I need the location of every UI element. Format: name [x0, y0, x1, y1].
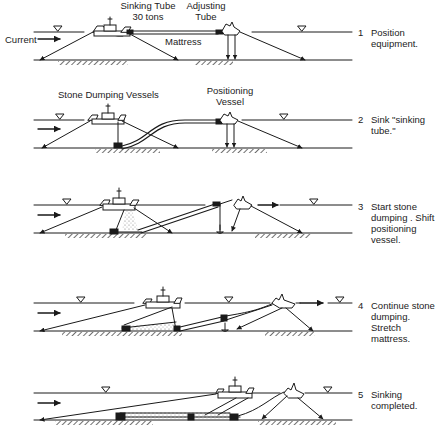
sinking-tube-weight: 30 tons [120, 11, 176, 22]
stone-dumping-vessels-label: Stone Dumping Vessels [58, 89, 159, 100]
anchor-icon [217, 225, 223, 234]
mattress-label: Mattress [165, 36, 201, 47]
adjusting-tube-line-1: Adjusting [183, 0, 229, 11]
panel-5 [34, 377, 352, 425]
anchor-icon [222, 323, 228, 332]
adjusting-tube-label: Adjusting Tube [183, 0, 229, 22]
sinking-tube [127, 30, 133, 34]
step-number: 2 [358, 114, 363, 125]
sinking-tube-name: Sinking Tube [120, 0, 176, 11]
vessel-icon [216, 377, 254, 398]
positioning-vessel-line-1: Positioning [204, 85, 256, 96]
positioning-vessel-icon [234, 196, 252, 209]
step-text: Position equipment. [371, 27, 441, 49]
step-number: 1 [358, 27, 363, 38]
adjusting-tube [230, 414, 238, 420]
panel-4 [34, 287, 352, 336]
step-number: 4 [358, 300, 363, 311]
stone-fall [122, 210, 138, 230]
sinking-tube [110, 229, 118, 234]
bed-hatch [58, 61, 128, 65]
sinking-tube [114, 143, 122, 148]
water-level-icon [298, 26, 306, 31]
adjusting-tube-line-2: Tube [183, 11, 229, 22]
positioning-vessel-icon [272, 294, 295, 308]
bed-hatch [195, 61, 233, 65]
step-text: Sinking completed. [371, 389, 441, 411]
panel-3 [34, 188, 352, 238]
adjusting-tube [213, 202, 220, 206]
positioning-vessel-line-2: Vessel [204, 96, 256, 107]
step-number: 3 [358, 201, 363, 212]
sinking-tube-label: Sinking Tube 30 tons [120, 0, 176, 22]
step-text: Start stone dumping . Shift positioning … [371, 201, 441, 245]
step-number: 5 [358, 389, 363, 400]
water-level-icon [54, 26, 62, 31]
current-label: Current [5, 34, 37, 45]
vessel-icon [100, 188, 139, 210]
positioning-vessel-label: Positioning Vessel [204, 85, 256, 107]
step-text: Sink "sinking tube." [371, 114, 441, 136]
positioning-vessel-icon [222, 22, 240, 59]
vessel-icon [143, 287, 182, 308]
panel-2 [34, 104, 352, 153]
sinking-tube [122, 326, 130, 331]
sinking-tube [116, 413, 125, 420]
vessel-icon [88, 104, 126, 124]
step-text: Continue stone dumping. Stretch mattress… [371, 300, 441, 344]
positioning-vessel-icon [220, 112, 238, 147]
